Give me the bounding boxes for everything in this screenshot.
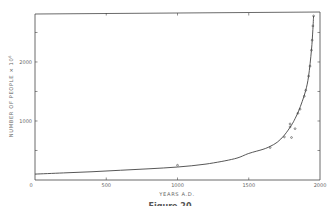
x-axis-title: YEARS A.D. — [158, 191, 194, 197]
y-axis-title: NUMBER OF PEOPLE × 106 — [8, 55, 14, 137]
observed-data-points — [177, 15, 315, 166]
y-tick-label: 1000 — [19, 118, 32, 124]
x-tick-label: 500 — [101, 182, 111, 188]
data-point — [269, 147, 271, 149]
axis-ticks — [35, 13, 320, 180]
plot-border — [35, 12, 320, 180]
data-point — [299, 108, 301, 110]
y-axis-title-text: NUMBER OF PEOPLE × 10 — [8, 58, 14, 138]
chart-canvas: 0500100015002000 10002000 YEARS A.D. NUM… — [0, 0, 334, 206]
y-axis-exponent: 6 — [8, 55, 12, 58]
data-point — [289, 123, 291, 125]
y-tick-label: 2000 — [19, 59, 32, 65]
data-point — [294, 128, 296, 130]
x-tick-labels: 0500100015002000 — [29, 182, 326, 188]
x-tick-label: 1000 — [171, 182, 184, 188]
x-tick-label: 1500 — [242, 182, 255, 188]
population-chart: 0500100015002000 10002000 YEARS A.D. NUM… — [0, 0, 334, 206]
figure-caption: Figure 20 — [149, 202, 192, 206]
plot-frame — [35, 12, 320, 180]
x-tick-label: 2000 — [314, 182, 327, 188]
y-tick-labels: 10002000 — [19, 59, 32, 124]
fitted-curve — [35, 16, 314, 174]
x-tick-label: 0 — [29, 182, 32, 188]
data-point — [291, 137, 293, 139]
data-point — [283, 136, 285, 138]
data-point — [177, 164, 179, 166]
